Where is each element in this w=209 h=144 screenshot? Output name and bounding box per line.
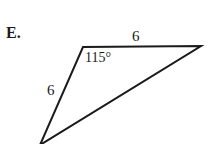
angle-measure: 115° [85, 51, 111, 65]
left-side-length: 6 [47, 83, 55, 98]
triangle [40, 46, 201, 144]
top-side-length: 6 [132, 29, 140, 44]
triangle-diagram [0, 0, 209, 144]
